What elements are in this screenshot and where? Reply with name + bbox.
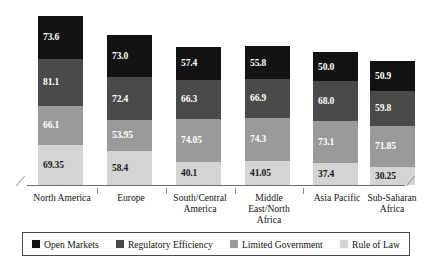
segment-value-label: 30.25 xyxy=(375,171,396,181)
segment-value-label: 66.9 xyxy=(250,93,266,103)
bar-segment-regulatory-efficiency[interactable]: 81.1 xyxy=(38,59,83,106)
stacked-bar[interactable]: 50.068.073.137.4 xyxy=(313,52,358,185)
legend-swatch-icon xyxy=(230,240,238,248)
category-separator-tick xyxy=(166,188,167,194)
segment-value-label: 66.1 xyxy=(43,120,59,130)
category-label-line: Sub-Saharan xyxy=(350,192,432,203)
segment-value-label: 50.0 xyxy=(318,62,334,72)
bar-group[interactable]: 57.466.374.0540.1 xyxy=(176,47,221,186)
bar-segment-open-markets[interactable]: 50.9 xyxy=(370,61,415,91)
segment-value-label: 53.95 xyxy=(112,130,133,140)
segment-value-label: 41.05 xyxy=(250,168,271,178)
bar-group[interactable]: 73.072.453.9558.4 xyxy=(107,35,152,185)
bar-segment-limited-government[interactable]: 74.3 xyxy=(245,118,290,161)
segment-value-label: 57.4 xyxy=(181,58,197,68)
legend-swatch-icon xyxy=(116,240,124,248)
bar-segment-open-markets[interactable]: 57.4 xyxy=(176,47,221,80)
segment-value-label: 55.8 xyxy=(250,58,266,68)
bar-segment-open-markets[interactable]: 50.0 xyxy=(313,52,358,81)
chart-legend: Open MarketsRegulatory EfficiencyLimited… xyxy=(22,232,410,256)
bar-segment-rule-of-law[interactable]: 58.4 xyxy=(107,151,152,185)
bar-segment-regulatory-efficiency[interactable]: 66.3 xyxy=(176,80,221,119)
bar-segment-regulatory-efficiency[interactable]: 66.9 xyxy=(245,79,290,118)
stacked-bar[interactable]: 73.072.453.9558.4 xyxy=(107,35,152,185)
segment-value-label: 50.9 xyxy=(375,71,391,81)
stacked-bar[interactable]: 73.681.166.169.35 xyxy=(38,16,83,185)
category-label-5: Sub-SaharanAfrica xyxy=(350,192,432,214)
legend-item-regulatory-efficiency[interactable]: Regulatory Efficiency xyxy=(116,239,213,250)
legend-swatch-icon xyxy=(32,240,40,248)
bar-segment-limited-government[interactable]: 74.05 xyxy=(176,119,221,162)
bar-segment-limited-government[interactable]: 73.1 xyxy=(313,121,358,164)
segment-value-label: 59.8 xyxy=(375,103,391,113)
bar-segment-limited-government[interactable]: 53.95 xyxy=(107,120,152,151)
bar-segment-rule-of-law[interactable]: 37.4 xyxy=(313,163,358,185)
bar-segment-regulatory-efficiency[interactable]: 72.4 xyxy=(107,77,152,119)
legend-item-open-markets[interactable]: Open Markets xyxy=(32,239,99,250)
segment-value-label: 73.0 xyxy=(112,51,128,61)
bar-group[interactable]: 50.068.073.137.4 xyxy=(313,52,358,185)
bar-segment-rule-of-law[interactable]: 41.05 xyxy=(245,161,290,185)
category-label-line: Africa xyxy=(227,214,311,225)
segment-value-label: 58.4 xyxy=(112,163,128,173)
segment-value-label: 73.6 xyxy=(43,32,59,42)
legend-item-rule-of-law[interactable]: Rule of Law xyxy=(340,239,400,250)
stacked-bar[interactable]: 55.866.974.341.05 xyxy=(245,46,290,185)
bar-segment-rule-of-law[interactable]: 69.35 xyxy=(38,145,83,185)
plot-area: 73.681.166.169.3573.072.453.9558.457.466… xyxy=(0,0,432,190)
category-label-line: East/North xyxy=(227,203,311,214)
segment-value-label: 81.1 xyxy=(43,77,59,87)
segment-value-label: 74.3 xyxy=(250,134,266,144)
segment-value-label: 72.4 xyxy=(112,94,128,104)
legend-label: Regulatory Efficiency xyxy=(128,239,213,250)
stacked-bar[interactable]: 57.466.374.0540.1 xyxy=(176,47,221,186)
segment-value-label: 68.0 xyxy=(318,96,334,106)
segment-value-label: 73.1 xyxy=(318,137,334,147)
bar-segment-limited-government[interactable]: 66.1 xyxy=(38,106,83,145)
bar-segment-open-markets[interactable]: 73.6 xyxy=(38,16,83,59)
bar-segment-regulatory-efficiency[interactable]: 68.0 xyxy=(313,81,358,121)
segment-value-label: 74.05 xyxy=(181,135,202,145)
category-separator-tick xyxy=(303,188,304,194)
category-label-line: Africa xyxy=(350,203,432,214)
legend-label: Open Markets xyxy=(44,239,99,250)
legend-swatch-icon xyxy=(340,240,348,248)
stacked-bar[interactable]: 50.959.871.8530.25 xyxy=(370,61,415,185)
segment-value-label: 71.85 xyxy=(375,141,396,151)
bar-segment-regulatory-efficiency[interactable]: 59.8 xyxy=(370,91,415,126)
stacked-bar-chart: 73.681.166.169.3573.072.453.9558.457.466… xyxy=(0,0,432,267)
category-separator-tick xyxy=(97,188,98,194)
category-axis-labels: North AmericaEuropeSouth/CentralAmericaM… xyxy=(0,188,432,228)
x-axis-line xyxy=(27,185,405,186)
legend-item-limited-government[interactable]: Limited Government xyxy=(230,239,323,250)
bar-segment-limited-government[interactable]: 71.85 xyxy=(370,126,415,168)
segment-value-label: 40.1 xyxy=(181,168,197,178)
segment-value-label: 69.35 xyxy=(43,160,64,170)
segment-value-label: 37.4 xyxy=(318,169,334,179)
bar-group[interactable]: 50.959.871.8530.25 xyxy=(370,61,415,185)
bar-segment-rule-of-law[interactable]: 40.1 xyxy=(176,162,221,185)
legend-label: Limited Government xyxy=(242,239,323,250)
bar-segment-open-markets[interactable]: 73.0 xyxy=(107,35,152,78)
bar-segment-open-markets[interactable]: 55.8 xyxy=(245,46,290,79)
bar-group[interactable]: 73.681.166.169.35 xyxy=(38,16,83,185)
bar-group[interactable]: 55.866.974.341.05 xyxy=(245,46,290,185)
legend-label: Rule of Law xyxy=(352,239,400,250)
category-separator-tick xyxy=(235,188,236,194)
segment-value-label: 66.3 xyxy=(181,94,197,104)
